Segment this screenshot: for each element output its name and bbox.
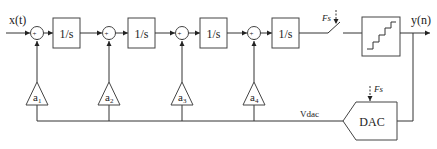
quantizer <box>362 17 400 56</box>
gain-a2: a2 <box>98 41 120 121</box>
summer-2: + - <box>103 27 116 44</box>
gain-a4: a4 <box>243 41 265 121</box>
dac-block: DAC Fs <box>343 84 397 140</box>
sampler-clock-label: Fs <box>321 13 331 23</box>
feedback-label: Vdac <box>300 109 319 119</box>
svg-text:1/s: 1/s <box>278 27 292 41</box>
summer-4: + - <box>248 27 261 44</box>
svg-text:1/s: 1/s <box>206 27 220 41</box>
gain-a3: a3 <box>171 41 193 121</box>
dac-clock-label: Fs <box>373 84 383 94</box>
summer-3: + - <box>176 27 189 44</box>
svg-text:DAC: DAC <box>359 115 384 129</box>
svg-text:1/s: 1/s <box>59 27 73 41</box>
integrator-3: 1/s <box>200 18 227 48</box>
sampler-switch: Fs <box>299 10 362 33</box>
summer-1: + - <box>31 27 44 44</box>
integrator-4: 1/s <box>272 18 299 48</box>
output-label: y(n) <box>411 13 431 27</box>
integrator-1: 1/s <box>53 18 80 48</box>
svg-text:1/s: 1/s <box>134 27 148 41</box>
input-label: x(t) <box>9 13 26 27</box>
integrator-2: 1/s <box>128 18 155 48</box>
modulator-diagram: x(t) + - 1/s + - 1/s + - 1/s + - <box>0 0 437 149</box>
gain-a1: a1 <box>26 41 48 121</box>
